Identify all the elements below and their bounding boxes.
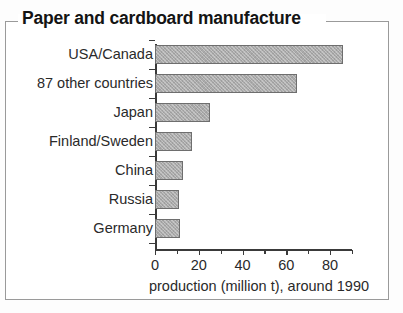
bar	[155, 74, 297, 93]
bar	[155, 45, 343, 64]
category-axis-labels: USA/Canada87 other countriesJapanFinland…	[10, 44, 153, 248]
plot-area: USA/Canada87 other countriesJapanFinland…	[0, 0, 403, 313]
x-axis-tick	[243, 250, 244, 255]
x-axis-tick-label: 40	[234, 256, 250, 274]
category-label: Russia	[10, 191, 153, 208]
x-axis-tick-label: 0	[151, 256, 159, 274]
x-axis-title: production (million t), around 1990	[130, 277, 388, 295]
bar	[155, 219, 180, 238]
y-axis-tick	[149, 40, 155, 41]
x-axis-tick	[330, 250, 331, 255]
bar	[155, 132, 192, 151]
category-label: China	[10, 162, 153, 179]
y-axis-tick	[149, 98, 155, 99]
y-axis-tick	[149, 69, 155, 70]
x-axis-line	[155, 249, 352, 251]
x-axis-tick	[155, 250, 156, 255]
y-axis-tick	[149, 185, 155, 186]
y-axis-tick	[149, 127, 155, 128]
y-axis-tick	[149, 243, 155, 244]
category-label: Finland/Sweden	[10, 133, 153, 150]
x-axis-minor-tick	[221, 250, 222, 254]
y-axis-tick	[149, 156, 155, 157]
category-label: Germany	[10, 220, 153, 237]
x-axis-minor-tick	[177, 250, 178, 254]
x-axis-minor-tick	[352, 250, 353, 254]
category-label: USA/Canada	[10, 46, 153, 63]
x-axis-tick	[199, 250, 200, 255]
category-label: Japan	[10, 104, 153, 121]
chart-figure: Paper and cardboard manufacture USA/Cana…	[0, 0, 403, 313]
x-axis-tick-label: 60	[278, 256, 294, 274]
x-axis-minor-tick	[264, 250, 265, 254]
bar	[155, 190, 179, 209]
x-axis-minor-tick	[308, 250, 309, 254]
x-axis-tick	[286, 250, 287, 255]
bar	[155, 103, 210, 122]
x-axis-tick-label: 80	[322, 256, 338, 274]
y-axis-tick	[149, 214, 155, 215]
category-label: 87 other countries	[10, 75, 153, 92]
x-axis-tick-label: 20	[191, 256, 207, 274]
bar	[155, 161, 183, 180]
